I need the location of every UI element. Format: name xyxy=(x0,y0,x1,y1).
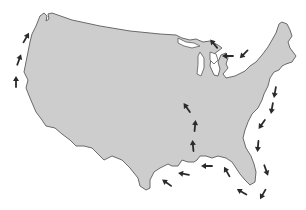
route-arrow-icon xyxy=(268,103,276,115)
route-arrow-icon xyxy=(178,170,190,178)
route-arrow-icon xyxy=(235,186,248,197)
route-arrow-icon xyxy=(261,164,270,176)
route-arrow-icon xyxy=(201,163,212,169)
route-arrow-icon xyxy=(221,165,232,178)
route-arrow-icon xyxy=(13,76,19,87)
us-map: Map of the United States with route arro… xyxy=(0,0,306,210)
route-arrow-icon xyxy=(256,118,267,130)
route-arrow-icon xyxy=(254,141,261,152)
map-canvas xyxy=(0,0,306,210)
route-arrow-icon xyxy=(257,188,268,201)
route-arrow-icon xyxy=(271,87,279,99)
route-arrow-icon xyxy=(14,53,23,65)
lake-huron xyxy=(210,52,218,64)
us-land-outline xyxy=(24,13,296,190)
route-arrow-icon xyxy=(238,48,250,60)
route-arrow-icon xyxy=(160,177,172,188)
